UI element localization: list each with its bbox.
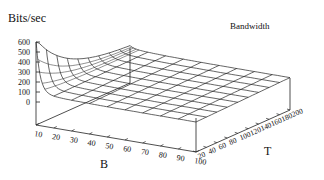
svg-text:10: 10: [34, 129, 43, 139]
bandwidth-surface-chart: Bits/sec Bandwidth B T 60050040030020010…: [0, 0, 324, 180]
svg-text:100: 100: [18, 88, 30, 97]
y-axis-label: T: [264, 144, 272, 158]
svg-text:0: 0: [26, 98, 30, 107]
x-axis-ticks: 102030405060708090100: [34, 124, 207, 167]
svg-text:60: 60: [123, 144, 132, 154]
svg-text:600: 600: [18, 38, 30, 47]
svg-text:400: 400: [18, 58, 30, 67]
svg-text:20: 20: [51, 132, 60, 142]
svg-text:300: 300: [18, 68, 30, 77]
z-axis-label: Bits/sec: [8, 11, 46, 25]
x-axis-label: B: [100, 157, 108, 171]
svg-text:80: 80: [158, 150, 167, 160]
svg-text:500: 500: [18, 48, 30, 57]
y-axis-ticks: 20406080100120140160180200: [193, 106, 304, 161]
svg-text:50: 50: [105, 141, 114, 151]
svg-text:200: 200: [18, 78, 30, 87]
svg-text:70: 70: [140, 147, 149, 157]
svg-text:30: 30: [69, 135, 78, 145]
svg-text:90: 90: [176, 153, 185, 163]
svg-text:40: 40: [87, 138, 96, 148]
svg-text:200: 200: [290, 106, 304, 119]
surface-mesh: [36, 42, 290, 122]
legend-label: Bandwidth: [230, 21, 270, 31]
